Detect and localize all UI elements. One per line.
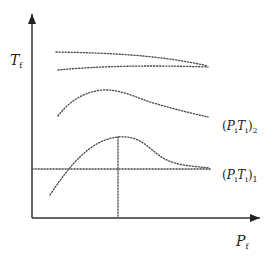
curve-upper-1 xyxy=(56,52,208,66)
y-axis-label: Tf xyxy=(10,53,22,70)
curve-index: 2 xyxy=(253,126,258,135)
y-axis-label-sub: f xyxy=(19,61,22,70)
curve-upper-2 xyxy=(58,66,208,70)
p-symbol: P xyxy=(227,119,235,133)
x-axis-label: Pf xyxy=(236,234,248,251)
x-axis-label-main: P xyxy=(236,233,245,249)
x-axis-label-sub: f xyxy=(245,242,248,251)
curve-label-2: (PiTi)2 xyxy=(222,120,258,135)
y-axis-label-main: T xyxy=(10,52,19,68)
curve-pi-ti-2 xyxy=(58,90,208,117)
curve-pi-ti-1 xyxy=(50,137,210,195)
p-symbol: P xyxy=(227,168,235,182)
curve-index: 1 xyxy=(253,175,258,184)
curve-label-1: (PiTi)1 xyxy=(222,169,258,184)
